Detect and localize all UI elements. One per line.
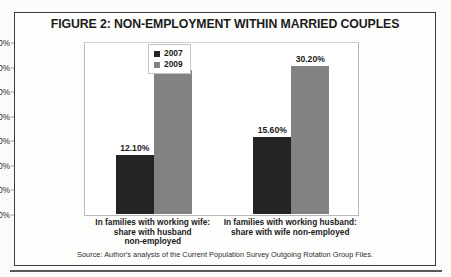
figure-frame: FIGURE 2: NON-EMPLOYMENT WITHIN MARRIED … (14, 12, 436, 266)
y-axis-tick-mark (11, 43, 14, 44)
y-axis-tick-mark (11, 165, 14, 166)
y-axis-tick-label: 25.00% (0, 88, 10, 97)
y-axis-tick-mark (11, 190, 14, 191)
legend-swatch-icon (154, 62, 160, 68)
legend-swatch-icon (154, 51, 160, 57)
source-note: Source: Author's analysis of the Current… (15, 250, 435, 259)
x-axis-labels: In families with working wife:share with… (84, 218, 359, 250)
y-axis-tick-label: 20.00% (0, 112, 10, 121)
legend-item-label: 2007 (164, 48, 183, 59)
x-axis-category-label: In families with working husband:share w… (207, 218, 375, 237)
y-axis-tick-mark (11, 67, 14, 68)
chart-legend: 20072009 (148, 44, 191, 74)
legend-item-label: 2009 (164, 59, 183, 70)
y-axis-tick-mark (11, 141, 14, 142)
x-axis-category-line: share with wife non-employed (207, 228, 375, 238)
plot-area: 12.10%29.40%15.60%30.20% (84, 42, 359, 216)
y-axis-tick-label: 0.00% (0, 211, 10, 220)
bar-value-label: 30.20% (296, 54, 325, 64)
y-axis-tick-label: 30.00% (0, 63, 10, 72)
bar-group: 15.60%30.20% (253, 42, 329, 214)
bar-2009-1: 29.40% (154, 70, 192, 214)
y-axis-tick-label: 10.00% (0, 161, 10, 170)
bar-2009-2: 30.20% (291, 66, 329, 214)
plot-wrap: 12.10%29.40%15.60%30.20% (84, 42, 359, 216)
y-axis-tick-mark (11, 215, 14, 216)
legend-item-2009: 2009 (154, 59, 183, 70)
bar-2007-1: 12.10% (116, 155, 154, 214)
bar-2007-2: 15.60% (253, 137, 291, 214)
y-axis-tick-label: 15.00% (0, 137, 10, 146)
y-axis-tick-label: 35.00% (0, 39, 10, 48)
y-axis: 0.00%5.00%10.00%15.00%20.00%25.00%30.00%… (0, 42, 14, 216)
x-axis-category-line: non-employed (69, 237, 237, 247)
legend-item-2007: 2007 (154, 48, 183, 59)
page-rule (10, 270, 442, 272)
y-axis-tick-label: 5.00% (0, 186, 10, 195)
y-axis-tick-mark (11, 116, 14, 117)
figure-title: FIGURE 2: NON-EMPLOYMENT WITHIN MARRIED … (15, 17, 435, 31)
bar-value-label: 15.60% (258, 125, 287, 135)
scanned-page: FIGURE 2: NON-EMPLOYMENT WITHIN MARRIED … (0, 0, 451, 277)
y-axis-tick-mark (11, 92, 14, 93)
bar-value-label: 12.10% (120, 143, 149, 153)
